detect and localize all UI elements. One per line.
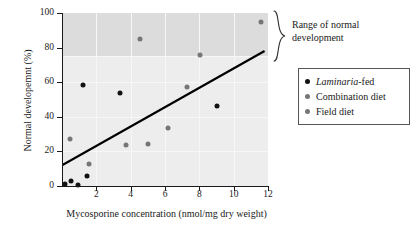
- legend-item-label: Laminaria-fed: [316, 77, 374, 87]
- legend-marker-icon: [305, 94, 310, 99]
- x-tick-label: 8: [188, 190, 210, 200]
- y-tick: [57, 13, 62, 14]
- y-axis-line: [62, 13, 63, 187]
- y-tick: [57, 82, 62, 83]
- y-tick: [57, 151, 62, 152]
- annotation-line-1: Range of normal: [292, 19, 412, 32]
- scatter-plot-figure: 02040608010024681012 Normal developemnt …: [0, 0, 417, 234]
- regression-line: [62, 13, 268, 186]
- legend-marker-icon: [305, 109, 310, 114]
- legend-item: Combination diet: [305, 89, 405, 104]
- legend-item: Field diet: [305, 104, 405, 119]
- x-tick-label: 12: [257, 190, 279, 200]
- y-tick: [57, 186, 62, 187]
- x-axis-title: Mycosporine concentration (nmol/mg dry w…: [44, 208, 289, 219]
- legend-marker-icon: [305, 79, 310, 84]
- y-tick: [57, 48, 62, 49]
- legend-item: Laminaria-fed: [305, 74, 405, 89]
- y-tick: [57, 117, 62, 118]
- x-tick-label: 10: [223, 190, 245, 200]
- legend-item-label: Combination diet: [316, 92, 386, 102]
- annotation-line-2: development: [292, 32, 412, 45]
- x-tick-label: 6: [154, 190, 176, 200]
- legend-item-label: Field diet: [316, 107, 354, 117]
- range-brace-icon: [272, 10, 290, 62]
- range-of-normal-development-annotation: Range of normal development: [292, 19, 412, 44]
- legend: Laminaria-fedCombination dietField diet: [298, 68, 410, 125]
- x-tick-label: 4: [120, 190, 142, 200]
- x-tick-label: 2: [85, 190, 107, 200]
- y-axis-title: Normal developemnt (%): [22, 11, 33, 191]
